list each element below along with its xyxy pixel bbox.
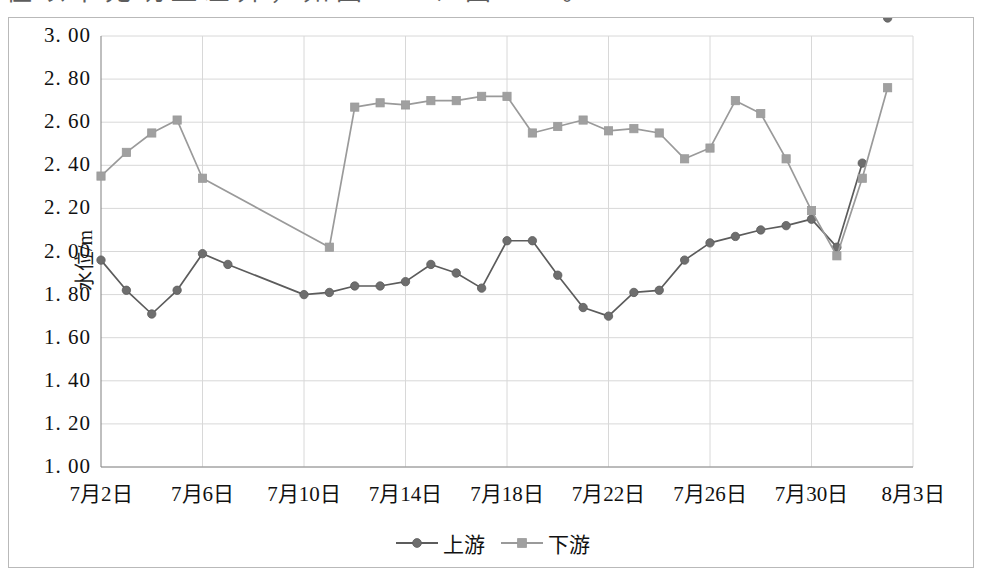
legend-item-upstream[interactable]: 上游: [394, 528, 485, 558]
y-axis-tick-label: 2. 00: [9, 239, 91, 264]
data-point-marker: [757, 226, 765, 234]
data-point-marker: [427, 260, 435, 268]
cropped-page-text-label: 值以下无明显差异，如图4-2、图4-3。: [6, 0, 595, 6]
y-axis-tick-label: 1. 60: [9, 325, 91, 350]
data-point-marker: [351, 103, 359, 111]
data-point-marker: [757, 109, 765, 117]
chart-area: 水位/m 3. 002. 802. 602. 402. 202. 001. 80…: [9, 18, 975, 569]
data-point-marker: [401, 101, 409, 109]
data-point-marker: [376, 99, 384, 107]
data-point-marker: [122, 286, 130, 294]
data-point-marker: [883, 18, 891, 22]
x-axis-tick-label: 8月3日: [848, 477, 978, 507]
data-point-marker: [604, 312, 612, 320]
data-point-marker: [427, 97, 435, 105]
data-point-marker: [782, 221, 790, 229]
data-point-marker: [300, 290, 308, 298]
legend-label: 下游: [548, 528, 590, 558]
data-point-marker: [630, 125, 638, 133]
figure-frame: 水位/m 3. 002. 802. 602. 402. 202. 001. 80…: [8, 17, 974, 568]
data-point-marker: [807, 206, 815, 214]
data-point-marker: [173, 116, 181, 124]
data-point-marker: [97, 172, 105, 180]
data-point-marker: [452, 97, 460, 105]
data-point-marker: [351, 282, 359, 290]
data-point-marker: [97, 256, 105, 264]
data-point-marker: [681, 155, 689, 163]
data-point-marker: [630, 288, 638, 296]
chart-legend: 上游下游: [9, 528, 975, 558]
data-point-marker: [833, 252, 841, 260]
data-point-marker: [579, 303, 587, 311]
y-axis-tick-label: 1. 80: [9, 282, 91, 307]
data-point-marker: [528, 129, 536, 137]
y-axis-tick-label: 2. 60: [9, 109, 91, 134]
legend-label: 上游: [443, 528, 485, 558]
legend-item-downstream[interactable]: 下游: [499, 528, 590, 558]
data-point-marker: [782, 155, 790, 163]
data-point-marker: [579, 116, 587, 124]
data-point-marker: [477, 284, 485, 292]
data-point-marker: [173, 286, 181, 294]
circle-marker-icon: [394, 534, 440, 552]
y-axis-tick-label: 2. 40: [9, 152, 91, 177]
data-point-marker: [680, 256, 688, 264]
data-point-marker: [706, 239, 714, 247]
data-point-marker: [325, 243, 333, 251]
data-point-marker: [554, 122, 562, 130]
data-point-marker: [122, 148, 130, 156]
data-point-marker: [706, 144, 714, 152]
data-point-marker: [884, 84, 892, 92]
y-axis-tick-label: 2. 20: [9, 195, 91, 220]
cropped-page-text: 值以下无明显差异，如图4-2、图4-3。: [0, 0, 982, 14]
data-point-marker: [198, 174, 206, 182]
y-axis-tick-label: 3. 00: [9, 23, 91, 48]
data-point-marker: [148, 310, 156, 318]
data-point-marker: [731, 232, 739, 240]
series-2: [97, 84, 892, 260]
data-point-marker: [452, 269, 460, 277]
data-point-marker: [503, 237, 511, 245]
data-point-marker: [604, 127, 612, 135]
data-point-marker: [858, 174, 866, 182]
data-point-marker: [478, 92, 486, 100]
data-point-marker: [198, 249, 206, 257]
series-line: [101, 88, 888, 256]
data-point-marker: [655, 286, 663, 294]
page-root: 值以下无明显差异，如图4-2、图4-3。 水位/m 3. 002. 802. 6…: [0, 0, 982, 576]
series-1: [97, 18, 892, 320]
square-marker-icon: [499, 534, 545, 552]
data-point-marker: [224, 260, 232, 268]
data-point-marker: [731, 97, 739, 105]
data-point-marker: [325, 288, 333, 296]
data-point-marker: [554, 271, 562, 279]
data-point-marker: [655, 129, 663, 137]
y-axis-tick-label: 2. 80: [9, 66, 91, 91]
data-point-marker: [401, 277, 409, 285]
data-point-marker: [528, 237, 536, 245]
data-point-marker: [503, 92, 511, 100]
data-point-marker: [148, 129, 156, 137]
data-point-marker: [376, 282, 384, 290]
y-axis-tick-label: 1. 00: [9, 454, 91, 479]
y-axis-tick-label: 1. 20: [9, 411, 91, 436]
y-axis-tick-label: 1. 40: [9, 368, 91, 393]
